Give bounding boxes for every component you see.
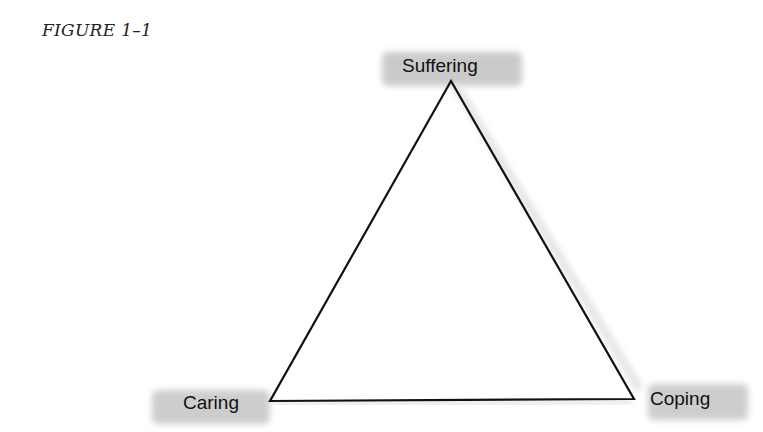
node-label-suffering: Suffering xyxy=(402,55,478,77)
node-label-coping: Coping xyxy=(650,388,710,410)
node-label-caring: Caring xyxy=(183,392,239,414)
triangle-diagram xyxy=(0,0,763,432)
triangle-outline xyxy=(270,81,634,401)
